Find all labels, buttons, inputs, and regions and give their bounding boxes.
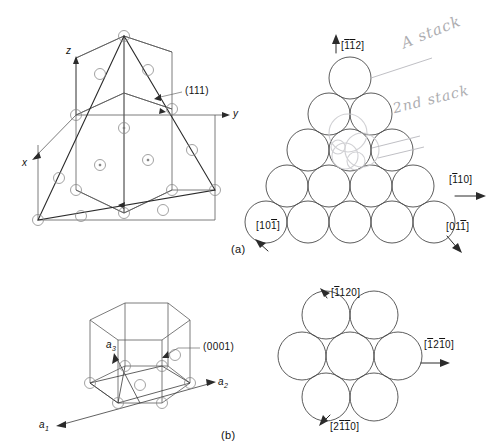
direction-2110-bar2: 1	[344, 421, 350, 432]
direction-1120-bar1: 1	[334, 287, 339, 298]
direction-label-1210: [1210]	[424, 340, 454, 350]
direction-label-1120: [1120]	[331, 288, 361, 298]
direction-label-2110: [2110]	[330, 422, 359, 432]
direction-1120-bar2: 2	[345, 287, 351, 298]
direction-1210-bar2: 1	[439, 339, 445, 350]
direction-1210-bar1: 1	[427, 339, 433, 350]
panel-b-packing-drawing	[0, 0, 493, 448]
figure-root: z y x (111)	[0, 0, 493, 448]
panel-b-caption: (b)	[221, 430, 236, 441]
closepacked-atoms-hcp	[278, 291, 422, 421]
direction-arrows-hcp	[319, 288, 450, 426]
